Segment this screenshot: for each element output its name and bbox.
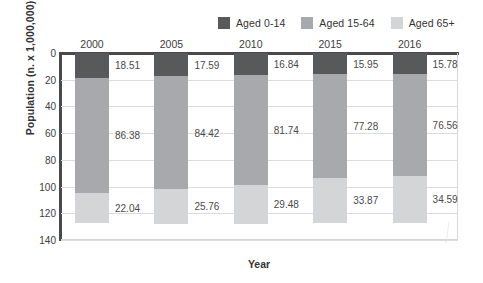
- bar-segment[interactable]: [393, 53, 427, 74]
- bar-value-label: 15.95: [353, 58, 378, 69]
- y-tick-label: 20: [22, 74, 56, 85]
- x-tick-label: 2010: [239, 38, 262, 50]
- bar-value-label: 15.78: [433, 58, 458, 69]
- y-tick-label: 0: [22, 48, 56, 59]
- bar-value-label: 86.38: [115, 130, 140, 141]
- bar-value-label: 77.28: [353, 120, 378, 131]
- bar-group: [154, 53, 188, 240]
- y-tick-label: 120: [22, 208, 56, 219]
- bar-value-label: 81.74: [274, 125, 299, 136]
- bar-segment[interactable]: [393, 74, 427, 176]
- page-scan-artifact: [446, 221, 462, 245]
- legend-item[interactable]: Aged 15-64: [301, 17, 374, 29]
- x-tick-label: 2005: [160, 38, 183, 50]
- bar-value-label: 25.76: [194, 201, 219, 212]
- y-tick-label: 80: [22, 154, 56, 165]
- bar-segment[interactable]: [75, 53, 109, 78]
- plot-area: 18.5186.3822.0417.5984.4225.7616.8481.74…: [61, 53, 458, 240]
- y-tick-label: 60: [22, 128, 56, 139]
- legend-swatch-aged-65: [391, 17, 403, 29]
- bar-value-label: 84.42: [194, 127, 219, 138]
- y-axis-tick-labels: 020406080100120140: [18, 53, 56, 240]
- chart-legend: Aged 0-14Aged 15-64Aged 65+: [218, 15, 470, 31]
- bar-segment[interactable]: [313, 53, 347, 74]
- y-tick-label: 40: [22, 101, 56, 112]
- legend-item[interactable]: Aged 0-14: [218, 17, 285, 29]
- bar-value-label: 33.87: [353, 195, 378, 206]
- bar-group: [234, 53, 268, 240]
- bar-segment[interactable]: [313, 74, 347, 177]
- bar-value-label: 76.56: [433, 120, 458, 131]
- bar-segment[interactable]: [234, 53, 268, 75]
- x-axis-tick-labels: 20002005201020152016: [61, 38, 458, 52]
- bar-segment[interactable]: [75, 78, 109, 193]
- bar-segment[interactable]: [234, 75, 268, 184]
- bar-value-label: 16.84: [274, 59, 299, 70]
- x-axis-title: Year: [60, 258, 458, 270]
- bar-segment[interactable]: [234, 185, 268, 224]
- legend-swatch-aged-0-14: [218, 17, 230, 29]
- y-tick-label: 100: [22, 181, 56, 192]
- bar-value-label: 17.59: [194, 59, 219, 70]
- x-tick-label: 2015: [319, 38, 342, 50]
- legend-item[interactable]: Aged 65+: [391, 17, 455, 29]
- y-tick-label: 140: [22, 235, 56, 246]
- bar-value-label: 34.59: [433, 194, 458, 205]
- x-tick-label: 2016: [398, 38, 421, 50]
- bar-value-label: 18.51: [115, 60, 140, 71]
- bar-value-label: 29.48: [274, 199, 299, 210]
- bar-value-label: 22.04: [115, 202, 140, 213]
- bar-segment[interactable]: [154, 189, 188, 223]
- bar-segment[interactable]: [393, 176, 427, 222]
- legend-label: Aged 65+: [409, 17, 455, 29]
- bar-group: [313, 53, 347, 240]
- bar-group: [75, 53, 109, 240]
- gridline: [61, 240, 458, 241]
- bar-segment[interactable]: [154, 76, 188, 189]
- legend-label: Aged 15-64: [319, 17, 374, 29]
- bar-group: [393, 53, 427, 240]
- x-tick-label: 2000: [80, 38, 103, 50]
- legend-label: Aged 0-14: [236, 17, 285, 29]
- bar-segment[interactable]: [75, 193, 109, 222]
- bar-segment[interactable]: [154, 53, 188, 76]
- bar-segment[interactable]: [313, 178, 347, 223]
- legend-swatch-aged-15-64: [301, 17, 313, 29]
